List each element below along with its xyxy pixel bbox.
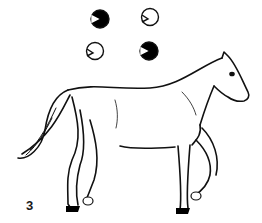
horse-shoulder-line xyxy=(115,100,117,128)
frame-number: 3 xyxy=(26,198,33,213)
indicator-left-hind xyxy=(87,43,104,60)
front-hoof-grounded xyxy=(176,208,190,214)
front-hoof-lifted xyxy=(191,192,201,200)
hind-leg-lifted xyxy=(86,120,97,200)
front-leg-grounded xyxy=(178,145,190,210)
hind-hoof-grounded xyxy=(66,206,80,212)
horse-neck-line xyxy=(182,92,196,115)
indicator-right-fore xyxy=(142,9,159,26)
hind-hoof-lifted xyxy=(83,197,93,205)
footfall-indicators xyxy=(0,0,262,70)
horse-gait-figure: 3 xyxy=(0,0,262,223)
horse-neck xyxy=(200,86,214,125)
horse-eye xyxy=(230,73,234,76)
horse-chest xyxy=(192,125,200,145)
indicator-right-hind xyxy=(140,42,158,60)
horse-belly xyxy=(120,146,175,148)
horse-tail xyxy=(18,90,70,158)
indicator-left-fore xyxy=(91,10,109,28)
